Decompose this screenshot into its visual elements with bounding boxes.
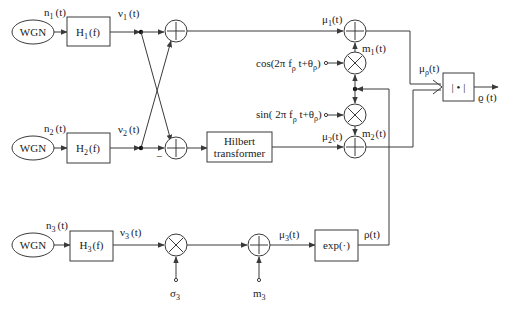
n2-label: n2(t) — [44, 122, 66, 137]
svg-text:| • |: | • | — [452, 81, 466, 93]
sigma3-label: σ3 — [170, 287, 180, 302]
rho-label: ρ(t) — [364, 228, 380, 241]
multiplier-sigma3 — [165, 234, 187, 256]
mu-rho-label: μρ(t) — [419, 62, 440, 77]
multiplier-sin — [344, 104, 366, 126]
adder-mu1 — [344, 20, 366, 42]
hilbert-transformer-block: Hilbert transformer — [207, 132, 272, 162]
n1-label: n1(t) — [44, 6, 66, 21]
svg-text:WGN: WGN — [20, 26, 46, 38]
minus-sign: − — [156, 150, 162, 162]
svg-text:Hilbert: Hilbert — [224, 135, 255, 147]
v2-label: ν2(t) — [118, 123, 140, 138]
sin-input-terminal — [324, 113, 327, 116]
m2-label: m2(t) — [362, 127, 386, 142]
v1-label: ν1(t) — [118, 7, 140, 22]
abs-block: | • | — [443, 73, 474, 101]
wgn-source-2: WGN — [12, 136, 54, 160]
real-part-line — [366, 31, 441, 84]
varrho-label: ϱ (t) — [478, 91, 497, 104]
filter-h2: H2(f) — [67, 133, 110, 163]
m1-label: m1(t) — [362, 42, 386, 57]
svg-text:transformer: transformer — [214, 147, 266, 159]
exp-block: exp(·) — [315, 230, 358, 261]
block-diagram: WGN n1(t) H1(f) ν1(t) μ1(t) m1(t) cos(2π… — [0, 0, 511, 310]
cos-input-terminal — [324, 61, 327, 64]
filter-h3: H3(f) — [70, 231, 113, 261]
wgn-source-1: WGN — [12, 20, 54, 44]
m3-label: m3 — [253, 287, 266, 302]
adder-mu2 — [344, 136, 366, 158]
adder-top — [165, 20, 187, 42]
svg-text:WGN: WGN — [20, 239, 46, 251]
svg-text:WGN: WGN — [20, 142, 46, 154]
cross-line-v1-to-bottom — [141, 32, 171, 141]
cos-carrier-label: cos(2π fρ t+θρ) — [256, 57, 321, 73]
adder-m3 — [248, 234, 270, 256]
v3-label: ν3(t) — [120, 226, 142, 241]
mu2-label: μ2(t) — [322, 130, 343, 145]
svg-text:exp(·): exp(·) — [323, 239, 350, 252]
mu1-label: μ1(t) — [322, 13, 343, 28]
cross-line-v2-to-top — [141, 41, 171, 148]
m3-input-terminal — [257, 278, 260, 281]
n3-label: n3(t) — [46, 219, 68, 234]
adder-bottom — [165, 137, 187, 159]
mu3-label: μ3(t) — [279, 228, 300, 243]
double-arrow-head — [433, 80, 442, 94]
wgn-source-3: WGN — [12, 233, 54, 257]
multiplier-cos — [344, 52, 366, 74]
sigma3-input-terminal — [174, 278, 177, 281]
filter-h1: H1(f) — [67, 17, 110, 46]
sin-carrier-label: sin( 2π fρ t+θρ) — [256, 108, 322, 124]
